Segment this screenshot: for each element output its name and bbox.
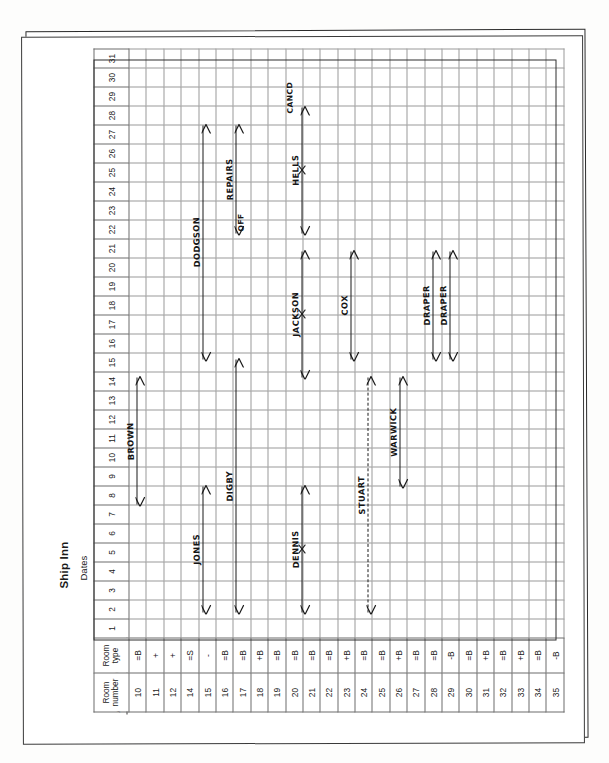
cell-day-27-room-24[interactable] [355,125,372,144]
cell-day-8-room-18[interactable] [250,486,267,505]
cell-day-29-room-22[interactable] [320,87,337,106]
cell-day-15-room-19[interactable] [268,353,285,372]
cell-day-5-room-23[interactable] [337,543,354,562]
cell-day-8-room-22[interactable] [320,486,337,505]
cell-day-6-room-23[interactable] [337,524,354,543]
cell-day-20-room-24[interactable] [355,258,372,277]
cell-day-28-room-33[interactable] [511,106,528,125]
cell-day-6-room-22[interactable] [320,524,337,543]
cell-day-3-room-12[interactable] [163,581,180,600]
cell-day-12-room-12[interactable] [163,410,180,429]
cell-day-29-room-14[interactable] [181,87,198,106]
cell-day-22-room-20[interactable] [285,220,302,239]
cell-day-12-room-31[interactable] [476,410,493,429]
cell-day-10-room-27[interactable] [407,448,424,467]
cell-day-12-room-17[interactable] [233,410,250,429]
cell-day-5-room-33[interactable] [511,543,528,562]
cell-day-19-room-27[interactable] [407,277,424,296]
cell-day-21-room-32[interactable] [494,239,511,258]
cell-day-9-room-15[interactable] [198,467,215,486]
cell-day-4-room-26[interactable] [389,562,406,581]
cell-day-23-room-30[interactable] [459,201,476,220]
cell-day-26-room-28[interactable] [424,144,441,163]
cell-day-25-room-27[interactable] [407,163,424,182]
cell-day-13-room-21[interactable] [302,391,319,410]
cell-day-7-room-27[interactable] [407,505,424,524]
cell-day-24-room-14[interactable] [181,182,198,201]
cell-day-27-room-31[interactable] [476,125,493,144]
cell-day-1-room-20[interactable] [285,619,302,638]
cell-day-3-room-10[interactable] [129,581,146,600]
cell-day-17-room-35[interactable] [546,315,563,334]
cell-day-5-room-29[interactable] [442,543,459,562]
cell-day-28-room-10[interactable] [129,106,146,125]
cell-day-8-room-28[interactable] [424,486,441,505]
cell-day-1-room-12[interactable] [163,619,180,638]
cell-day-9-room-30[interactable] [459,467,476,486]
cell-day-17-room-29[interactable] [442,315,459,334]
cell-day-20-room-15[interactable] [198,258,215,277]
cell-day-29-room-15[interactable] [198,87,215,106]
cell-day-31-room-32[interactable] [494,49,511,68]
cell-day-26-room-34[interactable] [528,144,545,163]
cell-day-18-room-30[interactable] [459,296,476,315]
cell-day-30-room-22[interactable] [320,68,337,87]
cell-day-27-room-21[interactable] [302,125,319,144]
cell-day-18-room-11[interactable] [146,296,163,315]
cell-day-17-room-21[interactable] [302,315,319,334]
cell-day-11-room-25[interactable] [372,429,389,448]
cell-day-5-room-22[interactable] [320,543,337,562]
cell-day-20-room-34[interactable] [528,258,545,277]
cell-day-5-room-28[interactable] [424,543,441,562]
cell-day-10-room-23[interactable] [337,448,354,467]
cell-day-5-room-11[interactable] [146,543,163,562]
cell-day-29-room-32[interactable] [494,87,511,106]
cell-day-17-room-18[interactable] [250,315,267,334]
cell-day-29-room-35[interactable] [546,87,563,106]
cell-day-7-room-23[interactable] [337,505,354,524]
cell-day-29-room-16[interactable] [215,87,232,106]
cell-day-4-room-12[interactable] [163,562,180,581]
cell-day-29-room-17[interactable] [233,87,250,106]
cell-day-15-room-34[interactable] [528,353,545,372]
cell-day-31-room-11[interactable] [146,49,163,68]
cell-day-9-room-27[interactable] [407,467,424,486]
cell-day-28-room-32[interactable] [494,106,511,125]
cell-day-4-room-32[interactable] [494,562,511,581]
cell-day-5-room-14[interactable] [181,543,198,562]
cell-day-28-room-29[interactable] [442,106,459,125]
cell-day-27-room-25[interactable] [372,125,389,144]
cell-day-7-room-10[interactable] [129,505,146,524]
cell-day-30-room-11[interactable] [146,68,163,87]
cell-day-21-room-26[interactable] [389,239,406,258]
cell-day-8-room-14[interactable] [181,486,198,505]
cell-day-10-room-17[interactable] [233,448,250,467]
cell-day-15-room-24[interactable] [355,353,372,372]
cell-day-21-room-25[interactable] [372,239,389,258]
cell-day-29-room-26[interactable] [389,87,406,106]
cell-day-25-room-18[interactable] [250,163,267,182]
cell-day-17-room-25[interactable] [372,315,389,334]
cell-day-28-room-24[interactable] [355,106,372,125]
cell-day-7-room-18[interactable] [250,505,267,524]
cell-day-25-room-11[interactable] [146,163,163,182]
cell-day-22-room-24[interactable] [355,220,372,239]
cell-day-13-room-12[interactable] [163,391,180,410]
cell-day-14-room-19[interactable] [268,372,285,391]
cell-day-11-room-14[interactable] [181,429,198,448]
cell-day-30-room-17[interactable] [233,68,250,87]
cell-day-10-room-25[interactable] [372,448,389,467]
cell-day-8-room-23[interactable] [337,486,354,505]
cell-day-20-room-35[interactable] [546,258,563,277]
cell-day-5-room-26[interactable] [389,543,406,562]
cell-day-9-room-26[interactable] [389,467,406,486]
cell-day-13-room-26[interactable] [389,391,406,410]
cell-day-15-room-27[interactable] [407,353,424,372]
cell-day-12-room-33[interactable] [511,410,528,429]
cell-day-13-room-10[interactable] [129,391,146,410]
cell-day-21-room-19[interactable] [268,239,285,258]
cell-day-3-room-29[interactable] [442,581,459,600]
cell-day-7-room-25[interactable] [372,505,389,524]
cell-day-23-room-32[interactable] [494,201,511,220]
cell-day-16-room-25[interactable] [372,334,389,353]
